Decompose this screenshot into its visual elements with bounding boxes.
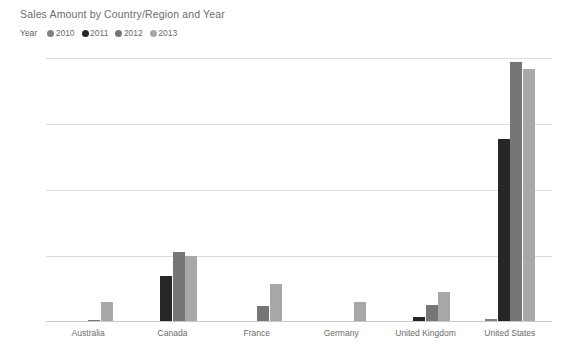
bar[interactable]: [510, 62, 522, 322]
x-tick-label: Canada: [158, 328, 188, 338]
legend-item-2013[interactable]: 2013: [150, 28, 177, 38]
bar-group: [232, 58, 282, 322]
bar[interactable]: [354, 302, 366, 322]
legend-label-2013: 2013: [158, 28, 177, 38]
x-tick-label: Germany: [324, 328, 359, 338]
bar-group: [148, 58, 198, 322]
bar-group: [485, 58, 535, 322]
bar[interactable]: [270, 284, 282, 322]
gridline-$5M: [46, 256, 552, 257]
legend-label-2010: 2010: [56, 28, 75, 38]
bar-group: [316, 58, 366, 322]
legend-swatch-2012: [115, 30, 122, 37]
chart-title: Sales Amount by Country/Region and Year: [20, 8, 225, 20]
x-tick-label: United Kingdom: [395, 328, 455, 338]
bar[interactable]: [101, 302, 113, 322]
chart-legend: Year 2010 2011 2012 2013: [20, 28, 177, 38]
bar[interactable]: [173, 252, 185, 322]
bar[interactable]: [185, 256, 197, 322]
bar[interactable]: [160, 276, 172, 322]
legend-item-2012[interactable]: 2012: [115, 28, 142, 38]
legend-item-2010[interactable]: 2010: [47, 28, 74, 38]
gridline-$10M: [46, 190, 552, 191]
bar[interactable]: [426, 305, 438, 322]
x-axis-line: [46, 321, 552, 322]
bar[interactable]: [498, 139, 510, 322]
x-tick-label: United States: [484, 328, 535, 338]
legend-item-2011[interactable]: 2011: [82, 28, 109, 38]
legend-title: Year: [20, 28, 37, 38]
legend-label-2012: 2012: [124, 28, 143, 38]
chart-card: Sales Amount by Country/Region and Year …: [0, 0, 564, 363]
legend-label-2011: 2011: [90, 28, 108, 38]
bar-group: [401, 58, 451, 322]
x-tick-label: Australia: [72, 328, 105, 338]
x-tick-label: France: [244, 328, 270, 338]
bar[interactable]: [257, 306, 269, 322]
legend-swatch-2013: [150, 30, 157, 37]
plot-area: [46, 58, 552, 322]
gridline-$15M: [46, 124, 552, 125]
bar-group: [63, 58, 113, 322]
gridline-$20M: [46, 58, 552, 59]
bar[interactable]: [523, 69, 535, 322]
legend-swatch-2011: [82, 30, 89, 37]
bar[interactable]: [438, 292, 450, 322]
legend-swatch-2010: [47, 30, 54, 37]
